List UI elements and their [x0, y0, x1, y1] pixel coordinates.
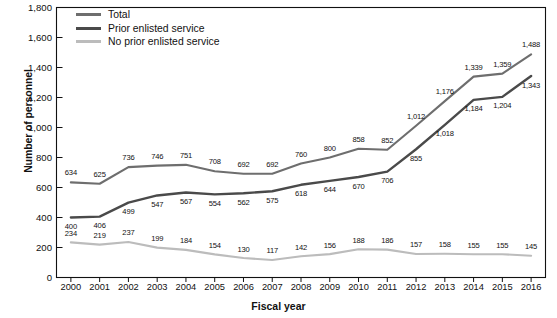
data-label: 567	[180, 197, 192, 206]
data-label: 562	[237, 198, 249, 207]
data-label: 760	[295, 150, 307, 159]
data-label: 199	[151, 234, 163, 243]
data-label: 692	[237, 160, 249, 169]
data-label: 746	[151, 152, 163, 161]
data-label: 1,204	[493, 101, 511, 110]
data-label: 130	[237, 245, 249, 254]
legend-label-prior-enlisted-service: Prior enlisted service	[108, 22, 204, 36]
legend-label-total: Total	[108, 8, 130, 22]
data-label: 234	[65, 229, 77, 238]
data-label: 1,343	[522, 81, 540, 90]
data-label: 154	[209, 241, 221, 250]
data-label: 157	[410, 240, 422, 249]
data-label: 1,488	[522, 40, 540, 49]
chart-container: Number of personnel Fiscal year 02004006…	[0, 0, 557, 318]
data-label: 117	[266, 246, 278, 255]
data-label: 575	[266, 196, 278, 205]
data-label: 554	[209, 199, 221, 208]
legend-swatch-total	[76, 13, 101, 16]
legend-swatch-prior-enlisted-service	[76, 27, 101, 30]
data-label: 706	[381, 176, 393, 185]
data-label: 406	[94, 221, 106, 230]
legend-item-prior-enlisted-service[interactable]: Prior enlisted service	[76, 22, 219, 36]
data-label: 852	[381, 136, 393, 145]
data-label: 155	[496, 241, 508, 250]
data-label: 1,176	[436, 87, 454, 96]
chart-legend: Total Prior enlisted service No prior en…	[76, 8, 219, 49]
data-label: 618	[295, 189, 307, 198]
data-label: 186	[381, 236, 393, 245]
data-label: 708	[209, 157, 221, 166]
data-label: 237	[122, 228, 134, 237]
data-label: 800	[324, 144, 336, 153]
data-label: 547	[151, 200, 163, 209]
data-label: 499	[122, 207, 134, 216]
legend-swatch-no-prior-enlisted-service	[76, 40, 101, 43]
data-label: 1,012	[407, 112, 425, 121]
data-label: 158	[439, 240, 451, 249]
data-label: 625	[94, 170, 106, 179]
series-line-total	[71, 54, 531, 183]
legend-item-no-prior-enlisted-service[interactable]: No prior enlisted service	[76, 35, 219, 49]
data-label: 1,184	[465, 104, 483, 113]
data-label: 188	[352, 236, 364, 245]
legend-label-no-prior-enlisted-service: No prior enlisted service	[108, 35, 219, 49]
legend-item-total[interactable]: Total	[76, 8, 219, 22]
data-label: 219	[94, 231, 106, 240]
data-label: 1,018	[436, 129, 454, 138]
data-label: 692	[266, 160, 278, 169]
data-label: 855	[410, 154, 422, 163]
data-label: 142	[295, 243, 307, 252]
data-label: 156	[324, 241, 336, 250]
data-label: 670	[352, 182, 364, 191]
data-label: 736	[122, 153, 134, 162]
data-label: 751	[180, 151, 192, 160]
data-label: 184	[180, 236, 192, 245]
data-label: 858	[352, 135, 364, 144]
data-label: 1,339	[465, 63, 483, 72]
data-label: 644	[324, 185, 336, 194]
data-label: 145	[525, 242, 537, 251]
data-label: 155	[468, 241, 480, 250]
data-label: 1,359	[493, 60, 511, 69]
data-label: 634	[65, 168, 77, 177]
